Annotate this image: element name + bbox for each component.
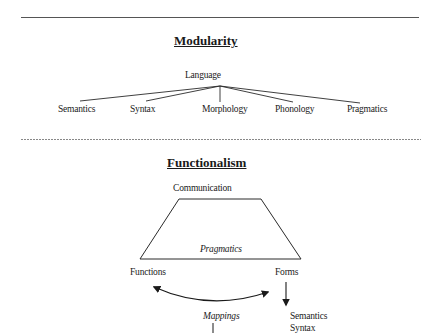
pragmatics-label: Pragmatics bbox=[200, 245, 242, 255]
modularity-tree-lines bbox=[80, 86, 360, 103]
modularity-title: Modularity bbox=[174, 34, 238, 47]
communication-label: Communication bbox=[173, 184, 232, 194]
functions-label: Functions bbox=[130, 268, 166, 278]
phonology-node: Phonology bbox=[275, 105, 314, 115]
semantics-node: Semantics bbox=[58, 105, 95, 115]
morphology-node: Morphology bbox=[202, 105, 248, 115]
syntax-node: Syntax bbox=[130, 105, 155, 115]
language-node: Language bbox=[185, 71, 221, 81]
pragmatics-node: Pragmatics bbox=[347, 105, 387, 115]
mappings-label: Mappings bbox=[203, 312, 239, 322]
forms-label: Forms bbox=[275, 268, 298, 278]
forms-semantics-label: Semantics bbox=[290, 312, 327, 322]
mapping-arrow bbox=[154, 287, 268, 301]
functionalism-title: Functionalism bbox=[167, 156, 246, 169]
forms-syntax-label: Syntax bbox=[290, 324, 315, 333]
